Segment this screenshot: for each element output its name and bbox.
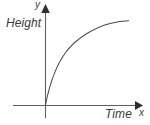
y-axis-name-label: Height: [6, 17, 41, 29]
graph-figure: Height y Time x: [0, 0, 150, 125]
growth-curve: [46, 21, 129, 105]
y-axis-variable-label: y: [35, 0, 40, 10]
x-axis-variable-label: x: [139, 108, 144, 118]
y-axis-arrowhead-icon: [41, 4, 50, 13]
x-axis-name-label: Time: [105, 108, 132, 120]
